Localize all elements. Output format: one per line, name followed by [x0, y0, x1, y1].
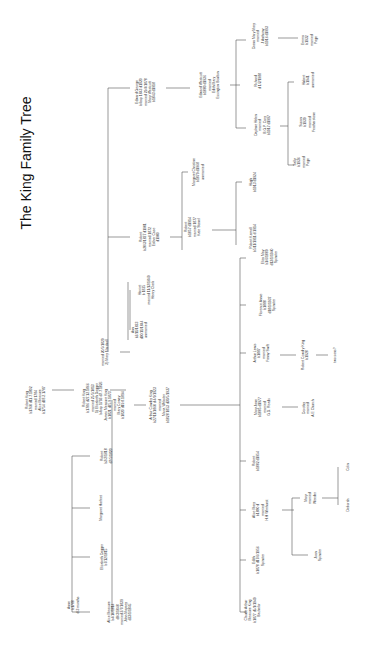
person-sally: Sallyb1936marriedPage	[293, 156, 310, 168]
person-detail-line: Bachelor	[257, 597, 261, 622]
person-detail-line: A.E Church	[310, 399, 314, 416]
person-deborah: Deborah	[346, 498, 350, 511]
person-detail-line: Deborah	[346, 498, 350, 511]
person-detail-line: Kate Stanel	[197, 217, 201, 237]
person-detail-line: d7/5/1820	[108, 448, 112, 463]
person-detail-line: unmarried	[144, 321, 148, 340]
person-detail-line: b1821 d25.9.1873	[109, 389, 113, 421]
person-detail-line: b1828 1853 d30/5/1937	[166, 387, 170, 423]
person-robert-b1827: Robertb20/3/1827 d1901married 1872Esther…	[139, 223, 160, 250]
person-detail-line: unmarried	[310, 72, 314, 87]
person-detail-line: Page	[314, 34, 318, 46]
person-detail-line: Spinster	[272, 294, 276, 317]
person-detail-line: b5/11/1911 d 1914	[253, 224, 257, 252]
person-detail-line: H.H Wimhurst	[265, 499, 269, 520]
person-detail-line: Featherstone	[312, 112, 316, 132]
person-margaret-christine: Margaret Christineb1879 d1968unmarried	[192, 158, 205, 186]
person-detail-line: b27/11/1860 d 4/9/1923	[154, 387, 158, 423]
person-detail-line: Fanny Swift	[266, 344, 270, 363]
person-detail-line: Measure King	[249, 597, 253, 622]
person-edith: Edithb1878 d17/6/1956Spinster	[252, 546, 265, 573]
person-robert-kemall: Robert Kemallb5/11/1911 d 1914	[249, 224, 258, 252]
person-ann: Annb2/11/1823d30/11/1844unmarried	[131, 321, 148, 340]
person-detail-line: b20/3/1827 d1901	[144, 223, 148, 250]
person-colin: Colin	[346, 463, 350, 471]
person-alice-measure: Alice Measureb4/10/1814d9/3/1848married …	[107, 599, 133, 625]
person-detail-line: married	[308, 492, 312, 504]
person-detail-line: b/bap 1793 d7.7.1826	[99, 382, 103, 415]
person-detail-line: 2) Mary Marshall	[105, 338, 109, 366]
person-dorothy: DorothymarriedA.E Church	[302, 399, 315, 416]
person-detail-line: b1916 d1993	[265, 23, 269, 49]
person-robert-king: Robert Kingb1786 d27.12.1866married 25/5…	[82, 382, 103, 415]
person-detail-line: G.D. Reads	[267, 397, 271, 417]
person-detail-line: b1754 d28.2.1787	[42, 386, 46, 413]
person-detail-line: d 3 months	[75, 597, 79, 614]
person-detail-line: Spinster	[274, 249, 278, 266]
person-detail-line: Margaret Harfeet	[99, 495, 103, 521]
person-robert-king-sr: Robert Kingb1760 d11.7.1802married 1784A…	[25, 386, 46, 413]
person-joan-spinster: JoanSpinster	[314, 549, 323, 561]
person-detail-line: b1882 d1954	[256, 451, 260, 471]
person-detail-line: b1843 d1918	[152, 78, 156, 106]
person-detail-line: Colin	[346, 463, 350, 471]
person-detail-line: d23/1/1845	[129, 599, 133, 625]
person-detail-line: Henry Clark	[151, 275, 155, 304]
person-daphne-helen: Daphne HelenmarriedB.G.P. Caryb1917 d199…	[254, 114, 271, 136]
person-alice-mary: Alice Maryb1880 dmarriedH.H Wimhurst	[252, 499, 269, 520]
person-detail-line: b/bap 1843 d1920	[140, 78, 144, 106]
person-hubert: Hubertb1941unmarried	[302, 72, 315, 87]
person-robert-cowdry-king: Robert Cowdry Kingb1928	[301, 340, 310, 370]
person-robert-b1818: Robertb2/2/1818d7/5/1820	[100, 448, 113, 463]
person-elizabeth-dagger: Elizabeth Daggerb7/12/1815	[100, 544, 109, 570]
person-detail-line: b1885 d1977	[259, 397, 263, 417]
person-detail-line: b1879 d1968	[196, 158, 200, 186]
person-detail-line: Spinster	[260, 546, 264, 573]
person-harriet: Harrietb 1825married 11/12/1849Henry Cla…	[138, 275, 155, 304]
person-detail-line: two sons?	[333, 347, 337, 362]
person-two-sons: two sons?	[333, 347, 337, 362]
person-robert-b1857: Robertb1857 d1914married 1877Kate Stanel	[184, 217, 201, 237]
person-robert-king-marriage2: married 20/5/18292) Mary Marshall	[101, 338, 110, 366]
person-detail-line: b1878 d17/6/1956	[256, 546, 260, 573]
person-detail-line: b1/6/1889	[266, 249, 270, 266]
person-diana-mary: Diana Mary MarymarriedJ Anthonyb1916 d19…	[252, 23, 269, 49]
person-detail-line: b1917 d1997	[267, 114, 271, 136]
person-detail-line: b1786 d27.12.1866	[87, 382, 91, 415]
person-detail-line: Spinster	[318, 549, 322, 561]
person-detail-line: b1820 d19.8.1894	[121, 389, 125, 421]
person-arthur-cowdry-king: Arthur Cowdry Kingb27/11/1860 d 4/9/1923…	[149, 387, 170, 423]
person-emma: Emmab1932marriedPage	[301, 34, 318, 46]
person-detail-line: b1857 d1914	[189, 217, 193, 237]
person-mary-jane: Mary Janeb1885 d1977marriedG.D. Reads	[254, 397, 271, 417]
person-detail-line: b1913 d1924	[253, 172, 257, 192]
person-detail-line: b2/11/1823	[136, 321, 140, 340]
person-detail-line: d 1/2/1988	[258, 73, 262, 89]
person-detail-line: Weeder	[312, 492, 316, 504]
person-detail-line: b1936	[298, 156, 302, 168]
person-anne: Anneb1788d 3 months	[67, 597, 80, 614]
person-arthur-lewis: Arthur Lewisb1887marriedFanny Swift	[253, 344, 270, 363]
person-detail-line: Essington Boulton	[216, 71, 220, 98]
person-mary-weeder: MarymarriedWeeder	[304, 492, 317, 504]
person-detail-line: b7/12/1815	[104, 544, 108, 570]
person-detail-line: b1880 d1936	[204, 71, 208, 98]
person-edward-george: Edward Georgeb/bap 1843 d1920married 29/…	[135, 78, 156, 106]
person-susan: Susanb1939marriedFeatherstone	[299, 112, 316, 132]
person-claude-arthur: Claude ArthurMeasure Kingb1877 d5/1/1949…	[244, 597, 261, 622]
person-detail-line: Page	[306, 156, 310, 168]
person-edward-westcott: Edward Westcottb1880 d1936marriedEdith M…	[199, 71, 220, 98]
person-margaret-harfeet: Margaret Harfeet	[99, 495, 103, 521]
person-detail-line: b1928	[305, 340, 309, 370]
person-detail-line: d1900	[156, 223, 160, 250]
person-james-measure-king: James Measure Kingb1821 d25.9.1873marrie…	[104, 389, 125, 421]
person-detail-line: b2/2/1818	[104, 448, 108, 463]
person-robert-b1882: Robertb1882 d1954	[252, 451, 261, 471]
person-florence-annie: Florence Annieb1888d18/1/1937Spinster	[259, 294, 276, 317]
person-eliza-may: Eliza Mayb1/6/1889d13/1/1940Spinster	[261, 249, 278, 266]
person-detail-line: b1932	[306, 34, 310, 46]
person-detail-line: unmarried	[200, 158, 204, 186]
person-detail-line: b1760 d11.7.1802	[30, 386, 34, 413]
person-hugh: Hughb1913 d1924	[249, 172, 258, 192]
person-richard: Richardd 1/2/1988	[254, 73, 263, 89]
